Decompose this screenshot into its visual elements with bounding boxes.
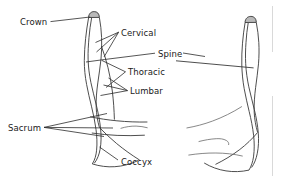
label-lumbar: Lumbar [130,86,163,96]
right-figure-right-contour [254,23,259,133]
leader-line-lumbar-b [101,91,128,96]
leader-line-cervical-c [97,32,119,52]
left-figure-body-ridge [101,46,114,119]
left-figure-outer-contour [84,18,97,164]
leader-line-spine-extend-left [86,60,105,63]
leader-line-sacrum-c [44,127,104,136]
leader-line-thoracic-a [102,61,126,72]
right-spine-figure [176,6,273,176]
left-figure-sacral-flare [99,127,139,160]
right-figure-upper-sweep [187,107,242,129]
leader-line-cervical-b [104,32,119,57]
label-spine: Spine [158,49,182,59]
leader-line-spine-right [183,53,205,57]
right-figure-lower-base [204,163,249,172]
left-figure-right-contour [96,18,102,128]
label-crown: Crown [20,17,47,27]
label-coccyx: Coccyx [121,157,152,167]
leader-line-sacrum-b [44,127,113,128]
spine-diagram: Crown Cervical Spine Thoracic Lumbar Sac… [0,0,281,176]
leader-line-spine-left [105,53,156,59]
label-cervical: Cervical [121,28,156,38]
leader-line-thoracic-b [106,72,126,88]
label-thoracic: Thoracic [128,67,165,77]
leader-line-crown [51,17,91,22]
leader-line-coccyx [100,147,119,160]
label-sacrum: Sacrum [8,123,41,133]
right-figure-outer-contour [242,23,254,171]
right-figure-notch-detail [199,139,229,145]
left-figure-notch-detail [121,126,148,128]
right-crown-cap [245,16,256,22]
leader-lines [44,17,205,160]
right-figure-inner-contour [245,23,258,168]
right-figure-sacral-flare [216,133,258,165]
left-figure-inner-contour [88,18,101,163]
left-figure-transverse-band-lower [92,133,145,136]
